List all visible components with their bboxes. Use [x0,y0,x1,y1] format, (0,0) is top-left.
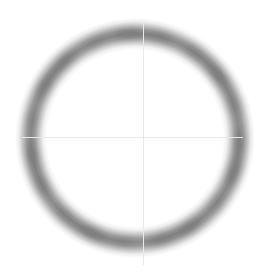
ring-phantom-image [0,0,279,272]
scan-viewport: ''''' Ring Phantom Scan [0,0,279,272]
crosshair-horizontal-line [22,137,243,138]
crosshair-vertical-line [143,22,144,265]
crosshair-center-point [143,137,144,138]
